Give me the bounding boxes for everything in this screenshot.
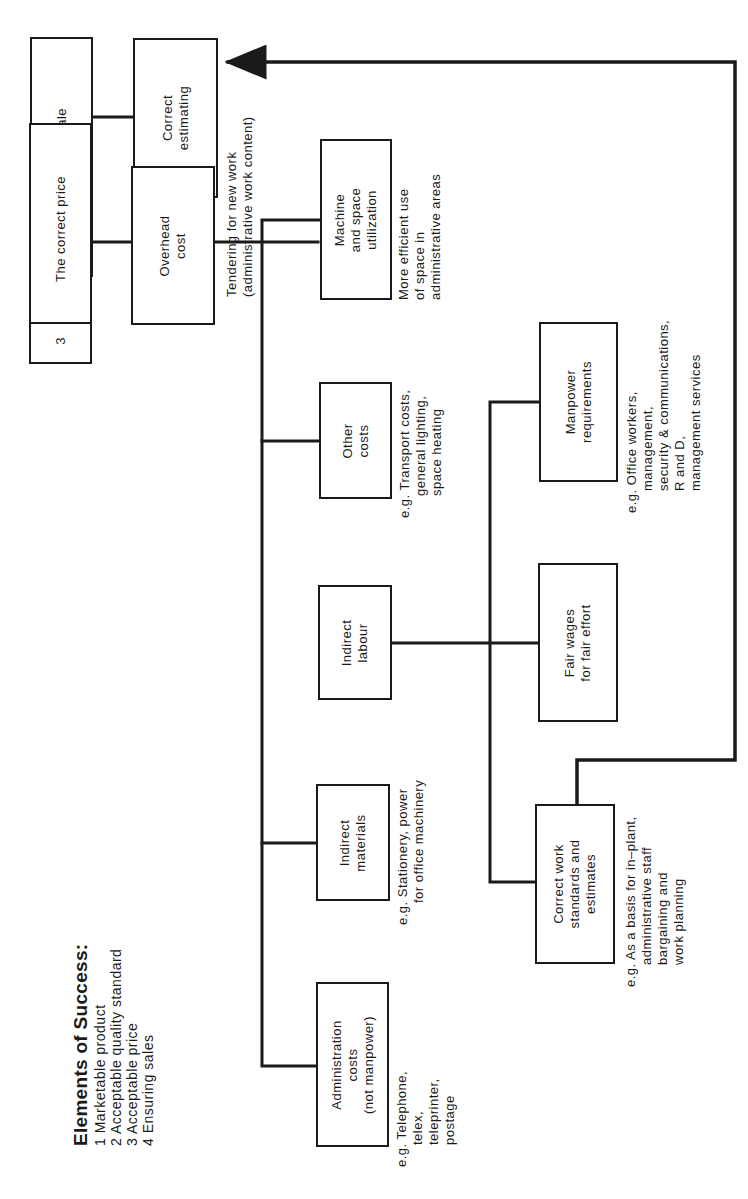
annotation-line: work planning bbox=[671, 816, 687, 987]
annotation-line: (administrative work content) bbox=[240, 116, 256, 297]
annotation-line: security & communications, bbox=[656, 320, 672, 513]
annotation-line: administrative staff bbox=[639, 816, 655, 987]
legend-item: 4 Ensuring sales bbox=[140, 944, 156, 1146]
node-label: Indirect labour bbox=[339, 619, 371, 666]
node-line: utilization bbox=[364, 187, 380, 252]
node-line: requirements bbox=[579, 361, 595, 443]
legend-elements-of-success: Elements of Success: 1 Marketable produc… bbox=[70, 944, 156, 1146]
node-line: Machine bbox=[332, 187, 348, 252]
annotation-line: e.g. As a basis for in–plant, bbox=[623, 816, 639, 987]
annotation-indirect-materials: e.g. Stationery, power for office machin… bbox=[395, 780, 427, 925]
node-line: costs bbox=[356, 423, 372, 458]
node-admin-costs: Administration costs (not manpower) bbox=[316, 982, 389, 1147]
annotation-admin-costs: e.g. Telephone, telex, teleprinter, post… bbox=[394, 1071, 458, 1167]
node-line: Correct bbox=[160, 86, 176, 150]
node-line: Correct work bbox=[551, 840, 567, 929]
annotation-line: postage bbox=[442, 1071, 458, 1167]
node-indirect-labour: Indirect labour bbox=[318, 585, 392, 700]
node-machine-space: Machine and space utilization bbox=[320, 139, 392, 300]
node-other-costs: Other costs bbox=[319, 382, 392, 499]
annotation-line: general lighting, bbox=[413, 390, 429, 518]
annotation-line: R and D, bbox=[672, 320, 688, 513]
node-line: cost bbox=[173, 215, 189, 276]
node-line: materials bbox=[353, 814, 369, 871]
annotation-work-standards: e.g. As a basis for in–plant, administra… bbox=[623, 816, 687, 987]
node-line: costs bbox=[345, 1015, 361, 1113]
annotation-line: management, bbox=[640, 320, 656, 513]
annotation-line: Tendering for new work bbox=[224, 116, 240, 297]
node-label: Correct estimating bbox=[160, 86, 192, 150]
node-line: Administration bbox=[329, 1015, 345, 1113]
node-line: estimating bbox=[176, 86, 192, 150]
node-line: estimates bbox=[583, 840, 599, 929]
node-line: (not manpower) bbox=[361, 1015, 377, 1113]
node-indirect-materials: Indirect materials bbox=[316, 784, 390, 901]
annotation-line: administrative areas bbox=[428, 174, 444, 300]
node-line: Fair wages bbox=[562, 604, 578, 681]
node-label: Indirect materials bbox=[337, 814, 369, 871]
node-label: Correct work standards and estimates bbox=[551, 840, 599, 929]
node-fair-wages: Fair wages for fair effort bbox=[538, 563, 618, 722]
element-number: 3 bbox=[53, 337, 69, 345]
annotation-line: e.g. Telephone, bbox=[394, 1071, 410, 1167]
main-spine bbox=[262, 220, 320, 1066]
annotation-line: management services bbox=[688, 320, 704, 513]
legend-item: 2 Acceptable quality standard bbox=[108, 944, 124, 1146]
node-line: Manpower bbox=[563, 361, 579, 443]
node-label: Fair wages for fair effort bbox=[562, 604, 594, 681]
node-line: and space bbox=[348, 187, 364, 252]
diagram-canvas: Ready sale 4 Correct estimating Tenderin… bbox=[0, 0, 748, 1199]
divider bbox=[31, 322, 90, 324]
annotation-line: space heating bbox=[429, 390, 445, 518]
annotation-line: e.g. Transport costs, bbox=[397, 390, 413, 518]
node-line: standards and bbox=[567, 840, 583, 929]
node-work-standards: Correct work standards and estimates bbox=[535, 804, 615, 964]
annotation-tendering: Tendering for new work (administrative w… bbox=[224, 116, 256, 297]
node-overhead-cost: Overhead cost bbox=[131, 166, 215, 325]
node-line: for fair effort bbox=[578, 604, 594, 681]
annotation-line: teleprinter, bbox=[426, 1071, 442, 1167]
node-label: Machine and space utilization bbox=[332, 187, 380, 252]
node-label: Manpower requirements bbox=[563, 361, 595, 443]
legend-item: 3 Acceptable price bbox=[124, 944, 140, 1146]
node-line: Indirect bbox=[339, 619, 355, 666]
annotation-line: e.g. Stationery, power bbox=[395, 780, 411, 925]
node-line: Other bbox=[340, 423, 356, 458]
annotation-line: telex, bbox=[410, 1071, 426, 1167]
annotation-machine-space: More efficient use of space in administr… bbox=[396, 174, 444, 300]
element-label: The correct price bbox=[53, 176, 69, 282]
annotation-line: of space in bbox=[412, 174, 428, 300]
annotation-line: e.g. Office workers, bbox=[624, 320, 640, 513]
node-label: Other costs bbox=[340, 423, 372, 458]
annotation-line: for office machinery bbox=[411, 780, 427, 925]
node-line: Indirect bbox=[337, 814, 353, 871]
annotation-line: bargaining and bbox=[655, 816, 671, 987]
node-label: Administration costs (not manpower) bbox=[329, 1015, 377, 1113]
node-manpower: Manpower requirements bbox=[539, 322, 618, 482]
legend-title: Elements of Success: bbox=[70, 944, 92, 1146]
node-line: labour bbox=[355, 619, 371, 666]
annotation-line: More efficient use bbox=[396, 174, 412, 300]
node-label: Overhead cost bbox=[157, 215, 189, 276]
node-line: Overhead bbox=[157, 215, 173, 276]
annotation-other-costs: e.g. Transport costs, general lighting, … bbox=[397, 390, 445, 518]
legend-item: 1 Marketable product bbox=[92, 944, 108, 1146]
element-box-correct-price: The correct price 3 bbox=[29, 123, 92, 364]
annotation-manpower: e.g. Office workers, management, securit… bbox=[624, 320, 704, 513]
